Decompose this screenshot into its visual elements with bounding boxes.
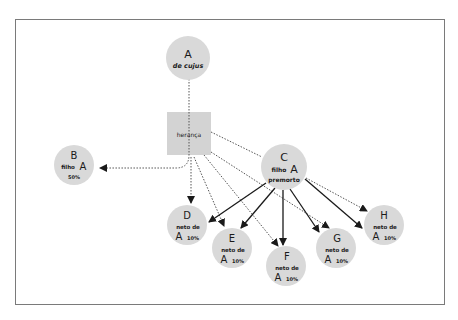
svg-text:F: F [284, 251, 290, 262]
svg-text:10%: 10% [286, 276, 298, 282]
edge-c-to-h [305, 179, 362, 228]
svg-text:B: B [71, 150, 78, 161]
edge-c-to-d [209, 183, 266, 222]
svg-text:filho: filho [61, 164, 75, 170]
node-f: F neto de A 10% [266, 246, 306, 286]
node-h: H neto de A 10% [364, 205, 404, 245]
svg-text:neto de: neto de [221, 247, 245, 253]
svg-text:A: A [325, 254, 332, 265]
svg-text:10%: 10% [336, 258, 348, 264]
svg-text:10%: 10% [187, 235, 199, 241]
svg-text:C: C [280, 151, 288, 164]
svg-text:A: A [373, 231, 380, 242]
svg-text:A: A [275, 272, 282, 283]
node-e: E neto de A 10% [212, 228, 252, 268]
svg-text:10%: 10% [384, 235, 396, 241]
svg-text:G: G [333, 233, 341, 244]
svg-text:50%: 50% [68, 174, 80, 180]
svg-text:filho: filho [272, 166, 287, 173]
edge-c-to-g [290, 189, 319, 232]
edge-c-to-e [241, 188, 275, 228]
edge-heranca-to-c [211, 132, 262, 157]
dotted-edges [100, 79, 367, 246]
svg-text:A: A [221, 254, 228, 265]
svg-text:A: A [290, 163, 298, 176]
node-d: D neto de A 10% [167, 205, 207, 245]
svg-text:neto de: neto de [373, 224, 397, 230]
svg-text:A: A [184, 48, 192, 61]
svg-text:premorto: premorto [268, 176, 300, 184]
svg-text:D: D [183, 210, 191, 221]
inheritance-diagram: A de cujus herança B filho A 50% C filho… [0, 0, 458, 320]
svg-text:neto de: neto de [176, 224, 200, 230]
svg-text:neto de: neto de [325, 247, 349, 253]
svg-text:10%: 10% [232, 258, 244, 264]
svg-text:H: H [380, 210, 388, 221]
node-g: G neto de A 10% [316, 228, 356, 268]
svg-text:E: E [229, 233, 235, 244]
svg-text:de cujus: de cujus [173, 62, 204, 70]
node-b: B filho A 50% [54, 145, 94, 185]
node-c: C filho A premorto [261, 144, 307, 190]
svg-text:neto de: neto de [275, 265, 299, 271]
heranca-label: herança [177, 131, 202, 139]
node-a: A de cujus [166, 36, 210, 80]
svg-text:A: A [80, 161, 87, 172]
svg-text:A: A [176, 231, 183, 242]
